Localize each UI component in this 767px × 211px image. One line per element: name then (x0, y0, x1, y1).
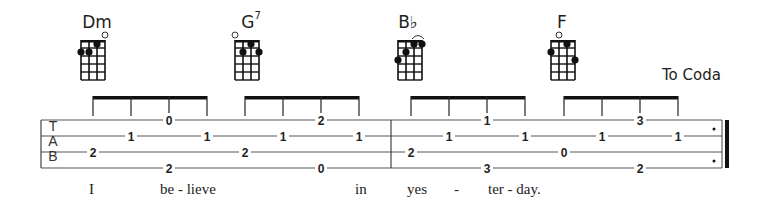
lyric-syllable: - (454, 181, 459, 198)
fret-number: 1 (484, 114, 491, 128)
fret-number: 0 (318, 162, 325, 176)
fret-number: 2 (242, 146, 249, 160)
fret-number: 3 (484, 162, 491, 176)
fret-number: 2 (408, 146, 415, 160)
tab-letter: A (48, 133, 58, 149)
fret-number: 1 (280, 130, 287, 144)
fret-number: 1 (675, 130, 682, 144)
fret-number: 1 (128, 130, 135, 144)
lyric-syllable: yes (407, 181, 427, 198)
fret-number: 1 (522, 130, 529, 144)
fret-number: 1 (204, 130, 211, 144)
tab-letter: B (48, 148, 57, 164)
fret-number: 2 (637, 162, 644, 176)
fret-number: 2 (166, 162, 173, 176)
fret-number: 0 (561, 146, 568, 160)
repeat-dot (713, 160, 716, 163)
fret-number: 1 (446, 130, 453, 144)
fret-number: 0 (166, 114, 173, 128)
fret-number: 2 (318, 114, 325, 128)
beam (564, 96, 678, 100)
lyric-syllable: in (355, 181, 367, 198)
fret-number: 1 (599, 130, 606, 144)
beam (93, 96, 207, 100)
fret-number: 2 (90, 146, 97, 160)
lyric-syllable: ter - day. (488, 181, 541, 198)
lyric-syllable: be - lieve (160, 181, 216, 198)
repeat-dot (713, 128, 716, 131)
fret-number: 1 (356, 130, 363, 144)
lyric-syllable: I (89, 181, 94, 198)
fret-number: 3 (637, 114, 644, 128)
tablature-staff: TAB21021212012113101321 (0, 0, 767, 211)
tab-letter: T (49, 118, 58, 134)
final-bar (725, 120, 729, 168)
beam (245, 96, 359, 100)
beam (411, 96, 525, 100)
